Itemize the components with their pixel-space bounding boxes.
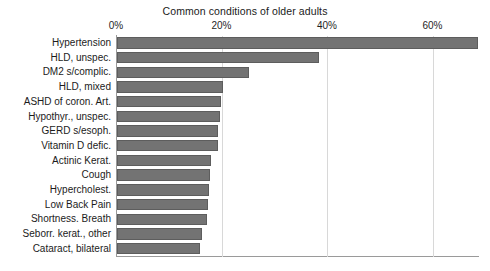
category-label: Cataract, bilateral <box>0 242 111 256</box>
bar <box>117 214 207 225</box>
x-tick-label: 20% <box>211 20 231 31</box>
x-tick-label: 0% <box>109 20 123 31</box>
bar <box>117 67 249 78</box>
bar <box>117 228 202 239</box>
bar-row: Cough <box>0 168 490 182</box>
bar <box>117 199 208 210</box>
category-label: HLD, mixed <box>0 80 111 94</box>
bar-row: Cataract, bilateral <box>0 242 490 256</box>
category-label: GERD s/esoph. <box>0 124 111 138</box>
bar-row: DM2 s/complic. <box>0 65 490 79</box>
bar <box>117 96 221 107</box>
chart-title: Common conditions of older adults <box>0 5 490 17</box>
x-tick-label: 40% <box>317 20 337 31</box>
category-label: HLD, unspec. <box>0 51 111 65</box>
bar-row: HLD, mixed <box>0 80 490 94</box>
category-label: Actinic Kerat. <box>0 154 111 168</box>
bar-row: Shortness. Breath <box>0 212 490 226</box>
bar-row: ASHD of coron. Art. <box>0 95 490 109</box>
bar <box>117 111 220 122</box>
bar <box>117 169 210 180</box>
category-label: ASHD of coron. Art. <box>0 95 111 109</box>
bar-row: Hypertension <box>0 36 490 50</box>
category-label: Hypercholest. <box>0 183 111 197</box>
category-label: Vitamin D defic. <box>0 139 111 153</box>
bar <box>117 37 478 48</box>
bar-row: Vitamin D defic. <box>0 139 490 153</box>
bar-chart-figure: Common conditions of older adults 0%20%4… <box>0 0 490 271</box>
category-label: Cough <box>0 168 111 182</box>
category-label: DM2 s/complic. <box>0 65 111 79</box>
bar-row: Hypercholest. <box>0 183 490 197</box>
bar-row: Hypothyr., unspec. <box>0 110 490 124</box>
bar <box>117 81 223 92</box>
bar-row: Actinic Kerat. <box>0 154 490 168</box>
bar-row: Low Back Pain <box>0 198 490 212</box>
bar-row: Seborr. kerat., other <box>0 227 490 241</box>
bar <box>117 125 218 136</box>
x-tick-label: 60% <box>422 20 442 31</box>
bar <box>117 52 319 63</box>
bar <box>117 243 200 254</box>
category-label: Hypertension <box>0 36 111 50</box>
bar <box>117 155 211 166</box>
category-label: Hypothyr., unspec. <box>0 110 111 124</box>
category-label: Low Back Pain <box>0 198 111 212</box>
bar <box>117 140 218 151</box>
x-axis-line <box>116 256 479 257</box>
category-label: Seborr. kerat., other <box>0 227 111 241</box>
bar-row: GERD s/esoph. <box>0 124 490 138</box>
bar <box>117 184 209 195</box>
bar-row: HLD, unspec. <box>0 51 490 65</box>
category-label: Shortness. Breath <box>0 212 111 226</box>
